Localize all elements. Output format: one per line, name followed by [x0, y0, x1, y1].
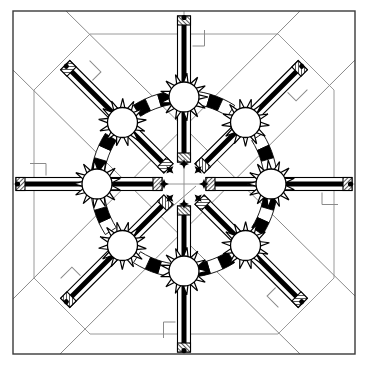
- outer-tip-marker: [15, 181, 20, 186]
- outer-tip-marker: [348, 181, 353, 186]
- hub-core-disc: [231, 231, 261, 261]
- hub-core-disc: [107, 231, 137, 261]
- hub-core-disc: [256, 169, 286, 199]
- hub-core-disc: [231, 107, 261, 137]
- hub-core-disc: [82, 169, 112, 199]
- outer-tip-marker: [181, 348, 186, 353]
- outer-tip-marker: [181, 15, 186, 20]
- technical-drawing-svg: [0, 0, 367, 369]
- hub-core-disc: [169, 82, 199, 112]
- hub-core-disc: [107, 107, 137, 137]
- hub-core-disc: [169, 256, 199, 286]
- drawing-canvas: [0, 0, 367, 369]
